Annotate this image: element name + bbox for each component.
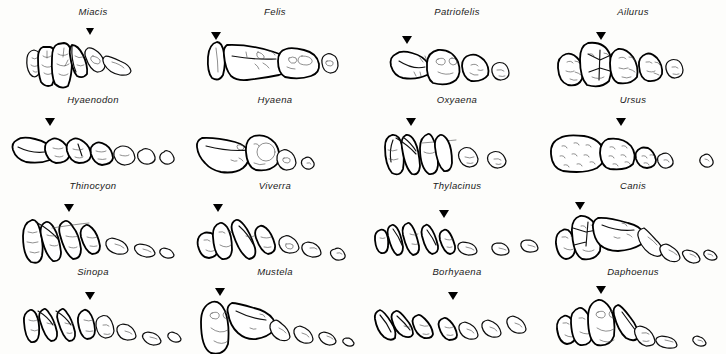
panel-felis: Felis [184,6,366,94]
isolated-tooth [693,336,706,346]
tooth-row-drawing [2,192,184,268]
tooth-row-drawing [366,278,548,354]
panel-daphoenus: Daphoenus [542,266,724,354]
tooth-row-drawing [366,18,548,94]
tooth-row-drawing [2,18,184,94]
carnassial-marker-icon [402,36,412,44]
panel-miacis: Miacis [2,6,184,94]
tooth-row-drawing [542,18,724,94]
tooth-row-drawing [366,106,548,182]
panel-borhyaena: Borhyaena [366,266,548,354]
isolated-tooth [700,154,713,167]
panel-label: Miacis [2,6,184,17]
panel-ailurus: Ailurus [542,6,724,94]
panel-label: Thinocyon [2,180,184,191]
tooth-row-drawing [542,278,724,354]
carnassial-marker-icon [215,288,225,296]
tooth-row-drawing [366,192,548,268]
carnassial-marker-icon [596,32,606,40]
carnassial-marker-icon [85,292,95,300]
panel-label: Ailurus [542,6,724,17]
carnassial-marker-icon [64,204,74,212]
panel-label: Daphoenus [542,266,724,277]
panel-label: Borhyaena [366,266,548,277]
panel-label: Thylacinus [366,180,548,191]
panel-thylacinus: Thylacinus [366,180,548,268]
carnassial-marker-icon [575,202,585,210]
tooth-row-drawing [2,278,184,354]
panel-ursus: Ursus [542,94,724,182]
panel-sinopa: Sinopa [2,266,184,354]
carnassial-marker-icon [86,28,94,35]
carnassial-marker-icon [406,118,416,126]
panel-viverra: Viverra [184,180,366,268]
carnassial-marker-icon [439,210,449,218]
panel-label: Hyaena [184,94,366,105]
tooth-row-drawing [184,18,366,94]
panel-canis: Canis [542,180,724,268]
panel-label: Sinopa [2,266,184,277]
panel-label: Ursus [542,94,724,105]
panel-label: Mustela [184,266,366,277]
panel-patriofelis: Patriofelis [366,6,548,94]
tooth-row-drawing [184,106,366,182]
panel-label: Viverra [184,180,366,191]
carnassial-marker-icon [213,204,223,212]
carnassial-marker-icon [45,118,55,126]
tooth-row-drawing [542,106,724,182]
panel-hyaena: Hyaena [184,94,366,182]
panel-thinocyon: Thinocyon [2,180,184,268]
panel-mustela: Mustela [184,266,366,354]
carnassial-marker-icon [616,118,626,126]
tooth-row-drawing [542,192,724,268]
carnassial-marker-icon [448,292,458,300]
carnassial-marker-icon [596,286,606,294]
tooth-row-drawing [184,192,366,268]
panel-label: Patriofelis [366,6,548,17]
panel-label: Hyaenodon [2,94,184,105]
panel-hyaenodon: Hyaenodon [2,94,184,182]
tooth-row-drawing [184,278,366,354]
panel-label: Oxyaena [366,94,548,105]
panel-label: Felis [184,6,366,17]
carnassial-marker-icon [211,32,221,40]
panel-oxyaena: Oxyaena [366,94,548,182]
panel-label: Canis [542,180,724,191]
tooth-row-drawing [2,106,184,182]
